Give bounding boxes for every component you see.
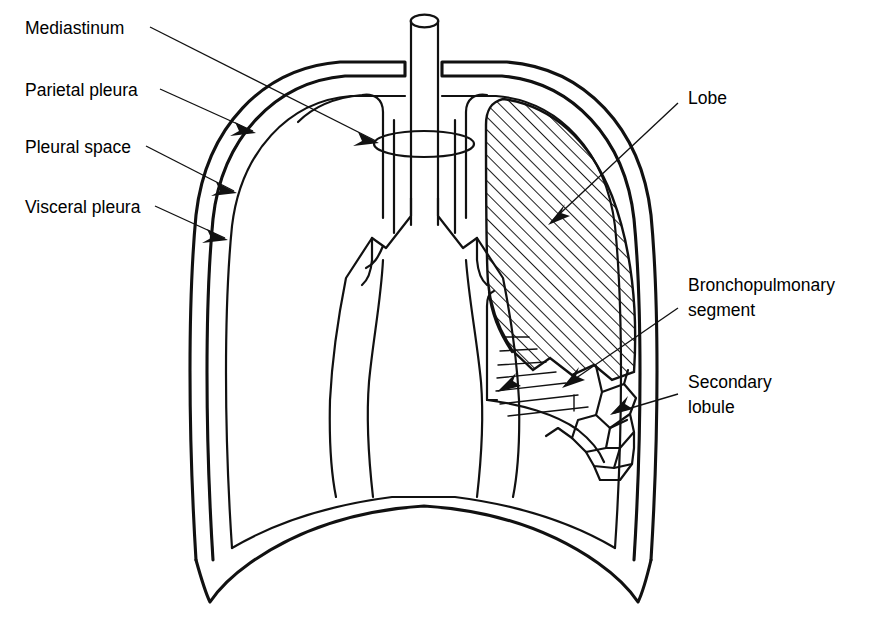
mediastinum-ring: [374, 131, 474, 157]
diaphragm: [196, 497, 651, 602]
lobe-hatched: [486, 99, 635, 380]
label-secondary-lobule-line2: lobule: [688, 397, 735, 417]
label-secondary-lobule-line1: Secondary: [688, 372, 772, 392]
label-pleural-space: Pleural space: [25, 137, 131, 157]
parietal-pleura-leader: [160, 89, 256, 136]
label-parietal-pleura: Parietal pleura: [25, 80, 138, 100]
trachea: [411, 15, 439, 225]
lung-anatomy-figure: Mediastinum Parietal pleura Pleural spac…: [0, 0, 876, 624]
diagram-canvas: Mediastinum Parietal pleura Pleural spac…: [0, 0, 876, 624]
label-mediastinum: Mediastinum: [25, 18, 124, 38]
label-lobe: Lobe: [688, 88, 727, 108]
mediastinum-column: [368, 260, 482, 497]
label-visceral-pleura: Visceral pleura: [25, 197, 141, 217]
main-bronchi: [298, 95, 487, 285]
label-bronchopulmonary-segment-line1: Bronchopulmonary: [688, 275, 835, 295]
label-bronchopulmonary-segment-line2: segment: [688, 300, 755, 320]
visceral-pleura-leader: [155, 206, 228, 243]
mediastinum-leader: [150, 27, 379, 146]
label-group: Mediastinum Parietal pleura Pleural spac…: [25, 18, 835, 417]
